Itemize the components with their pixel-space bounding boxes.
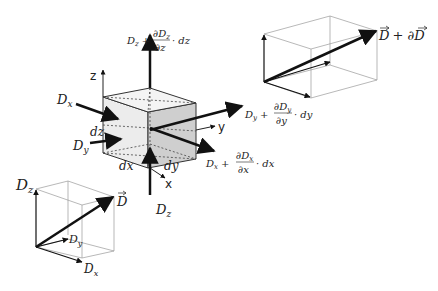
svg-text:· dx: · dx [256,158,275,169]
label-dy: dy [164,159,179,173]
y-axis-label: y [218,120,225,134]
bottom-left-vector-box [36,181,114,258]
label-Dz-out: Dz+ ∂Dz ∂z · dz [126,28,191,53]
svg-text:∂z: ∂z [155,42,166,53]
svg-text:∂y: ∂y [276,115,287,126]
svg-text:∂Dx: ∂Dx [236,150,253,163]
label-Dx-out: Dx+ ∂Dx ∂x · dx [205,150,275,175]
label-D-plus-dD: D+ ∂D [378,28,425,43]
z-axis-label: z [90,69,96,83]
svg-text:∂Dy: ∂Dy [274,101,292,114]
svg-text:∂Dz: ∂Dz [153,28,170,41]
label-Dy-out: Dy+ ∂Dy ∂y · dy [244,101,313,126]
label-Dz-component: Dz [15,176,34,195]
svg-text:∂x: ∂x [238,164,249,175]
flux-divergence-diagram: z y x Dx Dy Dz dz dx dy Dz+ ∂Dz ∂z · dz … [0,0,438,291]
label-dx: dx [119,159,134,173]
label-Dy-in: Dy [72,138,89,155]
svg-text:Dz+: Dz+ [126,35,150,48]
label-dz: dz [90,125,105,139]
label-Dz-in: Dz [155,202,171,219]
svg-text:· dz: · dz [172,35,191,46]
top-right-vectors: D+ ∂D [264,26,427,97]
svg-text:· dy: · dy [294,109,313,120]
svg-text:Dy+: Dy+ [244,109,268,122]
label-Dx-in: Dx [56,92,73,109]
x-axis-label: x [165,177,172,191]
label-D-vector: D [116,194,128,209]
label-Dx-component: Dx [83,262,99,278]
label-Dy-component: Dy [68,233,83,248]
svg-text:Dx+: Dx+ [205,158,229,171]
bottom-left-vectors: Dz D Dy Dx [15,176,128,278]
